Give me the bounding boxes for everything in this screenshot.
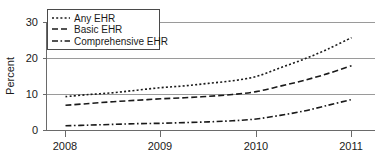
series-line-basic-ehr bbox=[66, 66, 352, 106]
line-chart: 30 20 10 0 2008 2009 2010 2011 Percent A… bbox=[0, 0, 381, 162]
x-tick-label-2008: 2008 bbox=[53, 140, 77, 152]
legend-label-any-ehr: Any EHR bbox=[74, 13, 115, 24]
series-line-comprehensive-ehr bbox=[66, 100, 352, 126]
series-lines bbox=[66, 38, 352, 126]
x-tick-labels: 2008 2009 2010 2011 bbox=[53, 140, 363, 152]
legend: Any EHR Basic EHR Comprehensive EHR bbox=[48, 10, 168, 50]
x-tick-label-2010: 2010 bbox=[244, 140, 268, 152]
x-tick-label-2009: 2009 bbox=[148, 140, 172, 152]
y-tickmarks bbox=[43, 23, 47, 131]
y-tick-label-20: 20 bbox=[26, 52, 38, 64]
y-tick-label-0: 0 bbox=[32, 124, 38, 136]
legend-label-comprehensive-ehr: Comprehensive EHR bbox=[74, 36, 168, 47]
y-tick-label-10: 10 bbox=[26, 88, 38, 100]
y-axis-title: Percent bbox=[4, 57, 16, 95]
x-tick-label-2011: 2011 bbox=[339, 140, 363, 152]
x-tickmarks bbox=[66, 131, 352, 137]
chart-figure: 30 20 10 0 2008 2009 2010 2011 Percent A… bbox=[0, 0, 381, 162]
y-tick-labels: 30 20 10 0 bbox=[26, 16, 38, 136]
legend-label-basic-ehr: Basic EHR bbox=[74, 24, 122, 35]
y-tick-label-30: 30 bbox=[26, 16, 38, 28]
